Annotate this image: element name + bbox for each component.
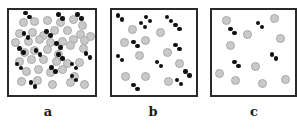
black-dimer-icon	[29, 80, 38, 89]
black-dimer-icon	[131, 40, 140, 49]
black-dimer-icon	[175, 78, 184, 87]
gray-particle-icon	[141, 72, 150, 81]
panel-label-b: b	[143, 104, 163, 119]
black-dimer-icon	[44, 29, 53, 38]
black-dimer-icon	[22, 31, 31, 40]
black-dimer-icon	[139, 21, 148, 30]
gray-particle-icon	[141, 36, 150, 45]
gray-particle-icon	[121, 72, 130, 81]
gray-particle-icon	[231, 76, 240, 85]
gray-particle-icon	[251, 62, 260, 71]
gray-particle-icon	[17, 77, 26, 86]
black-dimer-icon	[155, 60, 164, 69]
black-dimer-icon	[70, 74, 79, 83]
panel-label-c: c	[244, 104, 264, 119]
black-dimer-icon	[34, 48, 43, 57]
panel-c	[210, 8, 297, 97]
gray-particle-icon	[128, 25, 137, 34]
black-dimer-icon	[165, 15, 174, 24]
gray-particle-icon	[80, 80, 89, 89]
panel-b	[110, 8, 198, 97]
gray-particle-icon	[276, 34, 285, 43]
gray-particle-icon	[270, 14, 279, 23]
black-dimer-icon	[173, 23, 182, 32]
gray-particle-icon	[63, 26, 72, 35]
black-dimer-icon	[70, 62, 79, 71]
gray-particle-icon	[66, 41, 75, 50]
black-dimer-icon	[256, 21, 265, 30]
black-dimer-icon	[54, 41, 63, 50]
panel-a	[7, 8, 97, 97]
black-dimer-icon	[56, 12, 65, 21]
gray-particle-icon	[78, 21, 87, 30]
gray-particle-icon	[43, 45, 52, 54]
black-dimer-icon	[84, 51, 93, 60]
gray-particle-icon	[30, 17, 39, 26]
black-dimer-icon	[56, 52, 65, 61]
gray-particle-icon	[35, 35, 44, 44]
black-dimer-icon	[116, 13, 125, 22]
gray-particle-icon	[175, 59, 184, 68]
gray-particle-icon	[243, 30, 252, 39]
gray-particle-icon	[164, 77, 173, 86]
black-dimer-icon	[23, 11, 32, 20]
gray-particle-icon	[48, 80, 57, 89]
black-dimer-icon	[131, 83, 140, 92]
gray-particle-icon	[163, 48, 172, 57]
black-dimer-icon	[183, 69, 192, 78]
panel-label-a: a	[38, 104, 58, 119]
gray-particle-icon	[156, 28, 165, 37]
gray-particle-icon	[222, 16, 231, 25]
gray-particle-icon	[120, 38, 129, 47]
black-dimer-icon	[116, 54, 125, 63]
gray-particle-icon	[19, 18, 28, 27]
black-dimer-icon	[15, 62, 24, 71]
gray-particle-icon	[281, 75, 290, 84]
black-dimer-icon	[17, 46, 26, 55]
gray-particle-icon	[215, 69, 224, 78]
gray-particle-icon	[258, 79, 267, 88]
black-dimer-icon	[49, 65, 58, 74]
gray-particle-icon	[34, 65, 43, 74]
gray-particle-icon	[27, 55, 36, 64]
gray-particle-icon	[58, 65, 67, 74]
black-dimer-icon	[270, 52, 279, 61]
gray-particle-icon	[43, 16, 52, 25]
black-dimer-icon	[232, 60, 241, 69]
gray-particle-icon	[135, 51, 144, 60]
gray-particle-icon	[226, 41, 235, 50]
black-dimer-icon	[228, 27, 237, 36]
black-dimer-icon	[173, 43, 182, 52]
black-dimer-icon	[75, 12, 84, 21]
